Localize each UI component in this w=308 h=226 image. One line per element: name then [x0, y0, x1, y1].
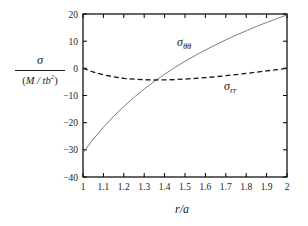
paren-close: ) [54, 74, 58, 85]
x-tick-label: 1.6 [199, 182, 211, 192]
curve-sigma_rr [83, 68, 287, 80]
curve-label-sigma-rr: σrr [224, 80, 237, 95]
x-tick-label: 1.5 [179, 182, 191, 192]
x-tick-label: 2 [285, 182, 290, 192]
y-axis-label: σ (M / tb2) [14, 54, 66, 86]
den-main: M / tb [26, 74, 51, 85]
sigma-rr-subscript: rr [230, 85, 237, 95]
y-tick-label: −10 [63, 91, 78, 101]
x-tick-label: 1.8 [240, 182, 252, 192]
x-tick-label: 1.1 [97, 182, 109, 192]
y-label-denominator: (M / tb2) [14, 71, 66, 86]
y-tick-label: 0 [73, 64, 78, 74]
x-tick-label: 1.9 [261, 182, 273, 192]
y-tick-label: 10 [69, 37, 79, 47]
y-tick-label: −30 [63, 145, 78, 155]
figure: 11.11.21.31.41.51.61.71.81.92−40−30−20−1… [0, 0, 308, 226]
plot-canvas: 11.11.21.31.41.51.61.71.81.92−40−30−20−1… [0, 0, 308, 226]
x-axis-label: r/a [160, 202, 204, 217]
y-tick-label: −40 [63, 173, 78, 183]
y-tick-label: 20 [69, 10, 79, 20]
x-tick-label: 1.2 [118, 182, 130, 192]
x-tick-label: 1.4 [159, 182, 171, 192]
sigma-theta-subscript: θθ [183, 41, 191, 51]
y-tick-label: −20 [63, 118, 78, 128]
x-tick-label: 1 [81, 182, 86, 192]
x-tick-label: 1.7 [220, 182, 232, 192]
x-tick-label: 1.3 [138, 182, 150, 192]
curve-label-sigma-theta-theta: σθθ [177, 36, 191, 51]
y-label-numerator: σ [14, 54, 66, 70]
